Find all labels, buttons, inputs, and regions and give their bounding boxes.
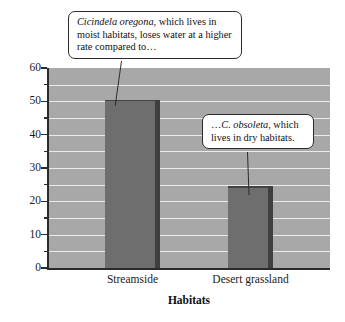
x-tick-label-streamside: Streamside xyxy=(73,273,193,286)
y-tick-minor xyxy=(44,117,48,119)
gridline xyxy=(48,85,330,86)
y-tick-label: 40 xyxy=(7,129,41,141)
bar-chart-figure: 0102030405060 Water loss (μg/cm2/hour) S… xyxy=(0,0,345,322)
y-tick-major xyxy=(41,67,47,69)
y-tick-major xyxy=(41,101,47,103)
y-tick-minor xyxy=(44,84,48,86)
annotation-text-part: … xyxy=(211,119,221,130)
annotation-text-part: C. obsoleta xyxy=(221,119,268,130)
bar-top-edge xyxy=(228,186,273,188)
y-tick-major xyxy=(41,267,47,269)
y-tick-label: 20 xyxy=(7,195,41,207)
cropped-caption-sliver xyxy=(14,316,334,322)
gridline xyxy=(48,201,330,202)
y-tick-label: 60 xyxy=(7,62,41,74)
gridline xyxy=(48,185,330,186)
gridline xyxy=(48,101,330,102)
plot-area xyxy=(48,68,330,268)
gridline xyxy=(48,251,330,252)
y-tick-major xyxy=(41,201,47,203)
gridline xyxy=(48,151,330,152)
x-axis-line xyxy=(47,268,330,270)
y-tick-minor xyxy=(44,217,48,219)
y-tick-label: 10 xyxy=(7,229,41,241)
gridline xyxy=(48,168,330,169)
bar-side-shadow xyxy=(268,186,273,268)
annotation-callout-c-obsoleta: …C. obsoleta, which lives in dry habitat… xyxy=(202,114,314,149)
y-axis-line xyxy=(47,68,49,269)
y-tick-label: 30 xyxy=(7,162,41,174)
x-tick-label-desert-grassland: Desert grassland xyxy=(191,273,311,286)
y-tick-minor xyxy=(44,251,48,253)
y-tick-major xyxy=(41,167,47,169)
bar-side-shadow xyxy=(155,100,160,268)
y-tick-label: 0 xyxy=(7,262,41,274)
y-tick-minor xyxy=(44,184,48,186)
bar-streamside xyxy=(105,100,160,268)
y-tick-major xyxy=(41,234,47,236)
bar-desert-grassland xyxy=(228,186,273,268)
y-tick-minor xyxy=(44,151,48,153)
x-axis-title: Habitats xyxy=(48,294,330,306)
gridlines xyxy=(48,68,330,268)
gridline xyxy=(48,218,330,219)
bar-top-edge xyxy=(105,100,160,102)
y-tick-major xyxy=(41,134,47,136)
gridline xyxy=(48,235,330,236)
annotation-text-part: Cicindela oregona xyxy=(77,16,154,27)
annotation-callout-cicindela-oregona: Cicindela oregona, which lives in moist … xyxy=(68,11,242,59)
y-tick-label: 50 xyxy=(7,95,41,107)
